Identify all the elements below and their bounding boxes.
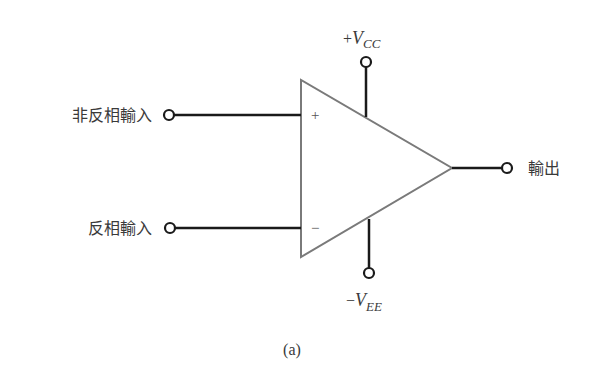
output-terminal [502,163,512,173]
inverting-input-label: 反相輸入 [88,219,152,238]
negative-supply-terminal [364,268,374,278]
op-amp-triangle [301,80,452,257]
positive-supply-terminal [361,57,371,67]
positive-supply-prefix: + [343,30,352,47]
negative-supply-label: −VEE [346,290,382,314]
figure-caption: (a) [283,341,301,359]
minus-sign: − [311,220,319,236]
positive-supply-label: +VCC [343,28,381,51]
non-inverting-input-terminal [164,110,174,120]
inverting-input-terminal [165,223,175,233]
output-label: 輸出 [528,159,560,178]
positive-supply-sub: CC [363,36,381,51]
op-amp-diagram: + − 非反相輸入 反相輸入 輸出 +VCC −VEE (a) [0,0,602,372]
negative-supply-sub: EE [365,299,382,314]
plus-sign: + [311,107,319,123]
negative-supply-prefix: − [346,292,355,309]
non-inverting-input-label: 非反相輸入 [72,106,152,125]
